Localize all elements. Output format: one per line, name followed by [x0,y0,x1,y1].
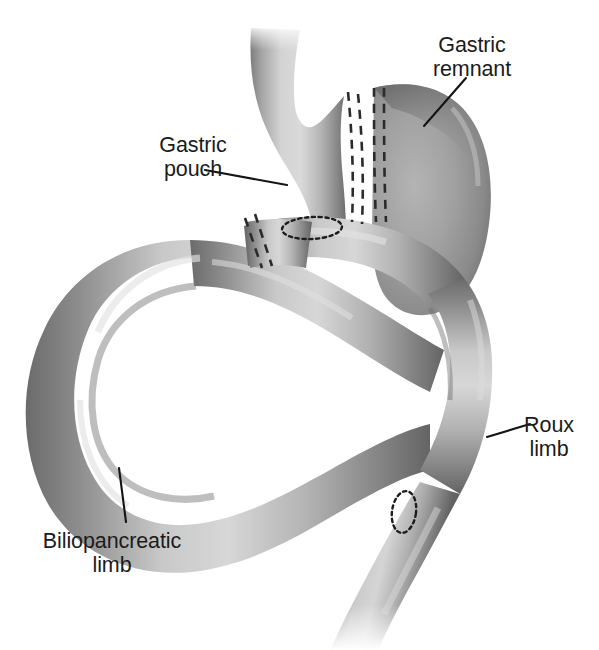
label-roux-limb-line2: limb [529,437,568,461]
label-gastric-remnant-line2: remnant [433,57,511,81]
label-biliopancreatic-limb-line1: Biliopancreatic [43,529,182,553]
label-biliopancreatic-limb-line2: limb [92,553,131,577]
label-gastric-pouch-line2: pouch [164,157,222,181]
roux-en-y-diagram: Gastric remnant Gastric pouch Roux limb … [0,0,599,650]
roux-limb-stump [246,219,312,268]
label-gastric-remnant-line1: Gastric [438,33,506,57]
anatomical-illustration: Gastric remnant Gastric pouch Roux limb … [0,0,599,650]
label-gastric-pouch-line1: Gastric [159,133,227,157]
label-roux-limb-line1: Roux [524,413,574,437]
